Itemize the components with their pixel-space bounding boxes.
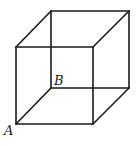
vertex-label-a: A	[3, 123, 13, 138]
vertex-label-b: B	[53, 73, 64, 88]
edge-depth-bottom-left	[16, 88, 51, 124]
edge-depth-bottom-right	[93, 88, 129, 124]
depth-edges	[16, 11, 129, 124]
edge-depth-top-right	[93, 11, 129, 47]
edge-depth-top-left	[16, 11, 51, 47]
cube-diagram: A B	[0, 0, 137, 146]
